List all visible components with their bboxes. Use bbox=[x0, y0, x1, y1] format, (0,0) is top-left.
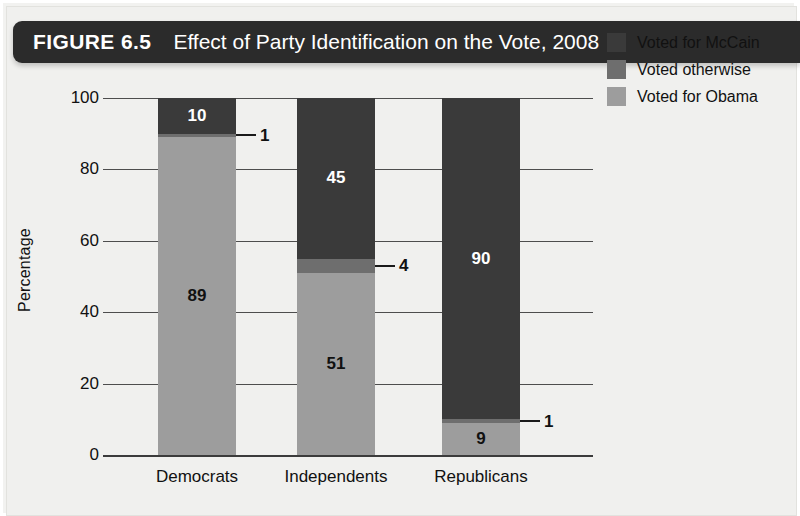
bar-segment-value-label: 45 bbox=[297, 169, 375, 186]
callout-leader-line bbox=[375, 265, 395, 267]
chart-plot-area: Percentage 100806040200 89110514459190 D… bbox=[3, 63, 800, 516]
figure-number-label: FIGURE 6.5 bbox=[33, 30, 151, 54]
legend-label: Voted otherwise bbox=[637, 61, 751, 79]
bar-segment-value-label: 10 bbox=[158, 107, 236, 124]
bar-segment-value-label: 51 bbox=[297, 355, 375, 372]
y-axis-title: Percentage bbox=[16, 180, 34, 360]
bar-segment-value-label: 90 bbox=[442, 250, 520, 267]
y-tick-label: 20 bbox=[43, 374, 99, 394]
legend-label: Voted for Obama bbox=[637, 88, 758, 106]
bar-segment[interactable] bbox=[297, 259, 375, 273]
bar-segment-callout: 1 bbox=[236, 128, 269, 142]
legend-item[interactable]: Voted for Obama bbox=[607, 87, 797, 106]
x-tick-label: Democrats bbox=[122, 467, 272, 487]
y-tick-label: 0 bbox=[43, 445, 99, 465]
bar-segment-value-label: 89 bbox=[158, 287, 236, 304]
legend-item[interactable]: Voted otherwise bbox=[607, 60, 797, 79]
x-tick-label: Republicans bbox=[406, 467, 556, 487]
legend-color-swatch bbox=[607, 87, 626, 106]
y-tick-label: 80 bbox=[43, 159, 99, 179]
bar-group[interactable]: 51445 bbox=[297, 63, 375, 516]
figure-title-text: Effect of Party Identification on the Vo… bbox=[173, 30, 599, 54]
legend-item[interactable]: Voted for McCain bbox=[607, 33, 797, 52]
callout-leader-line bbox=[520, 420, 540, 422]
y-tick-label: 100 bbox=[43, 88, 99, 108]
legend-color-swatch bbox=[607, 33, 626, 52]
y-axis-tick-labels: 100806040200 bbox=[33, 63, 99, 516]
bar-segment[interactable] bbox=[158, 134, 236, 138]
bar-group[interactable]: 9190 bbox=[442, 63, 520, 516]
y-tick-label: 40 bbox=[43, 302, 99, 322]
x-tick-label: Independents bbox=[261, 467, 411, 487]
bar-segment-value-label: 9 bbox=[442, 430, 520, 447]
chart-legend: Voted for McCainVoted otherwiseVoted for… bbox=[607, 33, 797, 114]
callout-value-label: 4 bbox=[399, 257, 408, 274]
callout-value-label: 1 bbox=[260, 127, 269, 144]
legend-color-swatch bbox=[607, 60, 626, 79]
bar-segment[interactable] bbox=[442, 419, 520, 423]
y-tick-label: 60 bbox=[43, 231, 99, 251]
bar-segment-callout: 1 bbox=[520, 414, 553, 428]
bar-segment-callout: 4 bbox=[375, 259, 408, 273]
bar-group[interactable]: 89110 bbox=[158, 63, 236, 516]
legend-label: Voted for McCain bbox=[637, 34, 760, 52]
callout-leader-line bbox=[236, 134, 256, 136]
callout-value-label: 1 bbox=[544, 413, 553, 430]
